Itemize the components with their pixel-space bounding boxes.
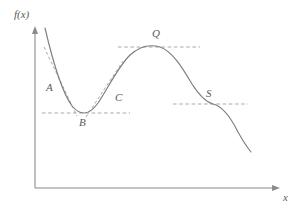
x-axis-label: x xyxy=(283,192,288,203)
point-label-q: Q xyxy=(152,28,160,39)
function-curve xyxy=(45,28,251,152)
point-label-a: A xyxy=(46,82,53,93)
point-label-b: B xyxy=(79,117,86,128)
point-label-s: S xyxy=(206,88,212,99)
graph-canvas xyxy=(0,0,297,213)
y-axis-label: f(x) xyxy=(14,9,29,20)
x-axis-arrowhead xyxy=(272,185,280,191)
y-axis-arrowhead xyxy=(32,26,38,34)
point-label-c: C xyxy=(115,92,122,103)
dashed-tangent-at-c xyxy=(86,61,123,117)
function-graph-figure: f(x) x A B C Q S xyxy=(0,0,297,213)
